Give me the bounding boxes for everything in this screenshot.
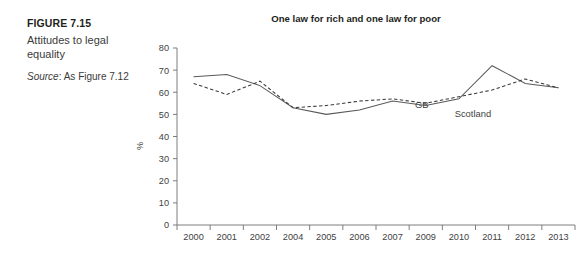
x-tick-label: 2013 — [548, 232, 568, 242]
x-tick-label: 2004 — [283, 232, 303, 242]
series-annotation-gb: GB — [415, 99, 429, 110]
y-tick-label: 60 — [159, 88, 169, 98]
y-tick-label: 30 — [159, 154, 169, 164]
series-line-scotland — [194, 79, 559, 108]
y-tick-label: 70 — [159, 66, 169, 76]
x-tick-label: 2011 — [482, 232, 502, 242]
source-text: : As Figure 7.12 — [59, 71, 129, 82]
figure-title: Attitudes to legal equality — [27, 33, 131, 61]
y-tick-label: 80 — [159, 43, 169, 53]
y-tick-label: 50 — [159, 110, 169, 120]
series-annotation-scotland: Scotland — [455, 108, 491, 119]
figure-page: FIGURE 7.15 Attitudes to legal equality … — [0, 0, 584, 256]
x-tick-label: 2005 — [316, 232, 336, 242]
x-tick-label: 2012 — [515, 232, 535, 242]
series-lines — [194, 66, 559, 115]
x-tick-label: 2002 — [250, 232, 270, 242]
y-tick-label: 40 — [159, 132, 169, 142]
figure-caption: FIGURE 7.15 Attitudes to legal equality … — [27, 17, 131, 84]
series-annotations: GBScotland — [415, 99, 491, 119]
series-line-gb — [194, 66, 559, 115]
x-tick-label: 2010 — [449, 232, 469, 242]
figure-source: Source: As Figure 7.12 — [27, 71, 131, 84]
x-tick-label: 2001 — [217, 232, 237, 242]
x-tick-label: 2006 — [349, 232, 369, 242]
figure-number: FIGURE 7.15 — [27, 17, 131, 30]
y-tick-label: 10 — [159, 198, 169, 208]
y-tick-label: 0 — [164, 220, 169, 230]
y-axis-title: % — [135, 142, 145, 150]
y-tick-label: 20 — [159, 176, 169, 186]
chart-container: One law for rich and one law for poor % … — [131, 6, 581, 250]
x-axis: 2000200120022004200520062007200920102011… — [177, 225, 575, 242]
line-chart: One law for rich and one law for poor % … — [131, 6, 581, 250]
x-tick-label: 2009 — [416, 232, 436, 242]
x-tick-label: 2007 — [382, 232, 402, 242]
x-tick-label: 2000 — [183, 232, 203, 242]
y-axis: 01020304050607080 — [159, 43, 177, 230]
chart-title: One law for rich and one law for poor — [271, 13, 441, 24]
source-label: Source — [27, 71, 59, 82]
